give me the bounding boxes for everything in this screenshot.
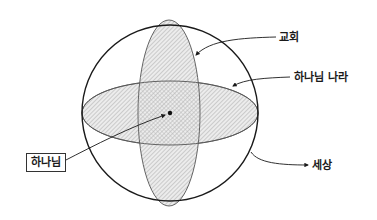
diagram-canvas [0,0,377,220]
kingdom-label: 하나님 나라 [294,72,348,83]
church-arrow [196,37,276,55]
world-label: 세상 [312,160,332,171]
kingdom-arrow [233,77,290,86]
world-arrow [251,152,308,165]
god-point [168,111,172,115]
god-label: 하나님 [26,153,66,172]
church-label: 교회 [279,32,299,43]
